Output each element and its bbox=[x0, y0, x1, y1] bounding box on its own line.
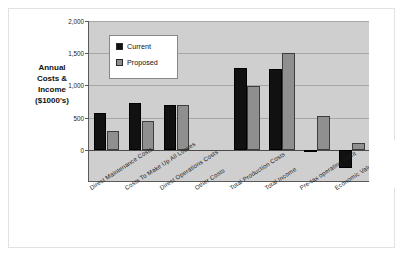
bar-current bbox=[339, 150, 352, 168]
y-axis-title-line-4: ($1000's) bbox=[20, 95, 84, 106]
bar-current bbox=[269, 69, 282, 150]
legend-label-proposed: Proposed bbox=[127, 58, 158, 67]
chart-figure: Annual Costs & Income ($1000's) 05001,00… bbox=[0, 0, 403, 256]
bar-proposed bbox=[282, 53, 295, 150]
bar-proposed bbox=[177, 105, 190, 150]
bar-current bbox=[164, 105, 177, 150]
legend-swatch-current-icon bbox=[116, 43, 123, 50]
gridline bbox=[89, 85, 369, 86]
legend-swatch-proposed-icon bbox=[116, 59, 123, 66]
bar-current bbox=[234, 68, 247, 150]
gridline bbox=[89, 21, 369, 22]
y-axis-title-line-2: Costs & bbox=[20, 73, 84, 84]
chart-legend: Current Proposed bbox=[109, 35, 178, 79]
bar-current bbox=[304, 150, 317, 152]
bar-current bbox=[129, 103, 142, 149]
y-axis-title-line-3: Income bbox=[20, 84, 84, 95]
bar-proposed bbox=[352, 143, 365, 150]
zero-line bbox=[89, 150, 369, 151]
bar-proposed bbox=[247, 86, 260, 150]
bar-current bbox=[94, 113, 107, 150]
y-axis-title: Annual Costs & Income ($1000's) bbox=[20, 62, 84, 106]
label-clip-mask bbox=[369, 140, 395, 188]
legend-item-current: Current bbox=[116, 42, 172, 51]
legend-item-proposed: Proposed bbox=[116, 58, 172, 67]
bar-proposed bbox=[142, 121, 155, 150]
y-axis-title-line-1: Annual bbox=[20, 62, 84, 73]
bar-proposed bbox=[317, 116, 330, 149]
legend-label-current: Current bbox=[127, 42, 151, 51]
bar-proposed bbox=[107, 131, 120, 150]
